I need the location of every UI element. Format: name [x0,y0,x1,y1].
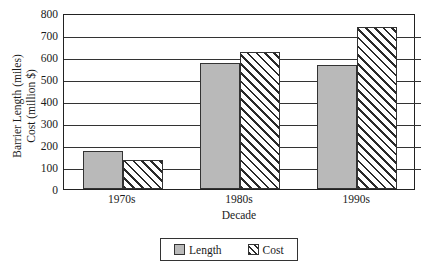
x-axis-tick-labels: 1970s1980s1990s [63,193,415,209]
legend-item-length: Length [174,244,222,256]
x-axis-tick-label: 1990s [343,193,370,205]
bar-1990s-length [317,65,357,189]
y-axis-title-line-1: Barrier Length (miles) [11,54,25,157]
y-axis-tick-mark [414,37,421,38]
y-axis-tick-mark [414,59,421,60]
x-axis-tick-label: 1970s [108,193,135,205]
y-axis-tick-labels: 0100200300400500600700800 [24,8,58,192]
legend-item-cost: Cost [248,244,284,256]
y-axis-tick-mark [414,125,421,126]
y-axis-tick-mark [414,81,421,82]
y-axis-tick-label: 0 [24,185,58,196]
legend-swatch-solid-icon [174,244,185,255]
y-axis-tick-label: 300 [24,119,58,130]
plot-area [63,14,415,190]
bar-1970s-cost [123,160,163,189]
y-axis-tick-label: 500 [24,75,58,86]
bar-1980s-length [200,63,240,190]
bar-1970s-length [83,151,123,190]
y-axis-tick-label: 700 [24,31,58,42]
y-axis-tick-label: 800 [24,9,58,20]
legend-swatch-hatch-icon [248,244,259,255]
legend-item-label: Cost [263,244,284,256]
y-axis-tick-label: 200 [24,141,58,152]
x-axis-title: Decade [63,209,415,221]
bars-layer [64,15,414,189]
bar-chart: Barrier Length (miles) Cost (million $) … [0,0,441,271]
bar-1990s-cost [357,27,397,189]
y-axis-tick-label: 100 [24,163,58,174]
y-axis-tick-label: 400 [24,97,58,108]
y-axis-tick-mark [414,169,421,170]
x-axis-tick-label: 1980s [225,193,252,205]
bar-1980s-cost [240,52,280,190]
y-axis-tick-label: 600 [24,53,58,64]
legend-item-label: Length [189,244,222,256]
y-axis-tick-mark [414,147,421,148]
y-axis-tick-mark [414,103,421,104]
chart-legend: LengthCost [160,238,298,261]
